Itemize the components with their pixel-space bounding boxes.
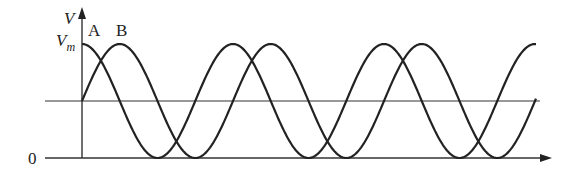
vmax-label: Vm <box>56 31 75 54</box>
curve-b-label: B <box>116 21 127 40</box>
curve-a-label: A <box>88 21 101 40</box>
y-axis-label: V <box>64 9 77 28</box>
x-axis-arrow-icon <box>540 154 552 162</box>
waveform-diagram: V Vm 0 A B <box>0 0 573 175</box>
y-axis-arrow-icon <box>78 7 86 19</box>
origin-label: 0 <box>28 149 37 168</box>
